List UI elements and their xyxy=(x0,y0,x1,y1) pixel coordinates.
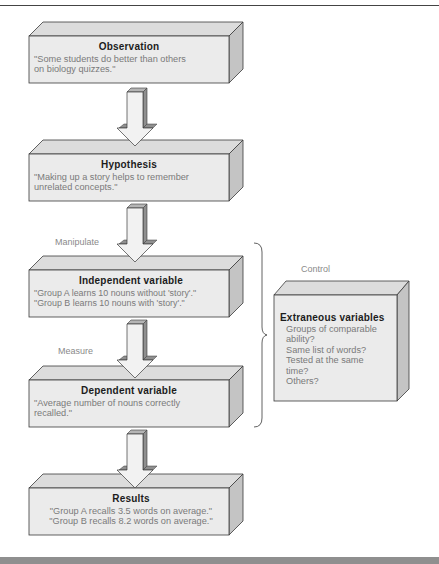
box-title: Independent variable xyxy=(34,276,228,287)
manipulate-label: Manipulate xyxy=(55,237,99,247)
independent-box: Independent variable "Group A learns 10 … xyxy=(34,276,228,309)
box-text-line: on biology quizzes." xyxy=(34,64,224,75)
list-item: Groups of comparable xyxy=(280,324,398,335)
control-label: Control xyxy=(301,264,330,274)
observation-box: Observation "Some students do better tha… xyxy=(34,42,224,75)
box-text-line: recalled." xyxy=(34,408,224,419)
list-item: ability? xyxy=(280,334,398,345)
box-text-line: "Group A recalls 3.5 words on average." xyxy=(34,506,228,517)
box-title: Results xyxy=(34,494,228,505)
arrow-down-icon xyxy=(117,88,157,146)
list-item: Others? xyxy=(280,376,398,387)
box-text-line: "Group A learns 10 nouns without 'story'… xyxy=(34,288,228,299)
results-box: Results "Group A recalls 3.5 words on av… xyxy=(34,494,228,527)
box-text-line: "Group B learns 10 nouns with 'story'." xyxy=(34,298,228,309)
box-text-line: "Average number of nouns correctly xyxy=(34,398,224,409)
box-title: Dependent variable xyxy=(34,386,224,397)
box-text-line: "Some students do better than others xyxy=(34,54,224,65)
box-title: Extraneous variables xyxy=(280,313,398,324)
dependent-box: Dependent variable "Average number of no… xyxy=(34,386,224,419)
box-text-line: "Making up a story helps to remember xyxy=(34,172,224,183)
arrow-down-icon xyxy=(117,204,157,262)
extraneous-variables-box: Extraneous variables Groups of comparabl… xyxy=(280,313,398,387)
box-text-line: unrelated concepts." xyxy=(34,182,224,193)
measure-label: Measure xyxy=(58,346,93,356)
list-item: Tested at the same xyxy=(280,355,398,366)
bottom-rule xyxy=(0,557,439,564)
box-text-line: "Group B recalls 8.2 words on average." xyxy=(34,516,228,527)
box-title: Hypothesis xyxy=(34,160,224,171)
list-item: Same list of words? xyxy=(280,345,398,356)
list-item: time? xyxy=(280,366,398,377)
brace-icon xyxy=(254,243,267,427)
box-title: Observation xyxy=(34,42,224,53)
hypothesis-box: Hypothesis "Making up a story helps to r… xyxy=(34,160,224,193)
